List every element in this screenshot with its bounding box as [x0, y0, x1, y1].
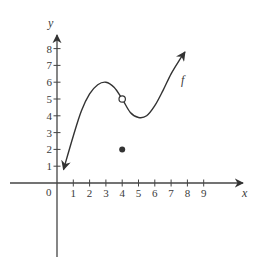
- x-tick-label: 9: [201, 187, 207, 199]
- y-tick-label: 7: [47, 59, 53, 71]
- y-tick-label: 3: [47, 127, 53, 139]
- x-tick-label: 6: [152, 187, 158, 199]
- y-tick-label: 8: [47, 43, 53, 55]
- closed-point: [119, 146, 125, 152]
- curve-f: [64, 52, 185, 170]
- x-tick-label: 1: [71, 187, 77, 199]
- graph-svg: 12345678912345678 x y 0 f: [0, 0, 257, 266]
- axes: [10, 35, 243, 257]
- origin-label: 0: [46, 186, 52, 198]
- function-graph: 12345678912345678 x y 0 f: [0, 0, 257, 266]
- x-tick-label: 4: [119, 187, 125, 199]
- x-tick-label: 3: [103, 187, 109, 199]
- points: [119, 96, 125, 153]
- x-axis-label: x: [241, 186, 248, 200]
- x-tick-label: 5: [136, 187, 142, 199]
- x-tick-label: 7: [168, 187, 174, 199]
- y-tick-label: 6: [47, 76, 53, 88]
- y-tick-label: 4: [47, 110, 53, 122]
- x-tick-label: 8: [185, 187, 191, 199]
- y-tick-label: 5: [47, 93, 53, 105]
- y-axis-label: y: [47, 16, 54, 30]
- x-tick-label: 2: [87, 187, 93, 199]
- y-tick-label: 2: [47, 143, 53, 155]
- ticks: 12345678912345678: [47, 43, 207, 199]
- curve-label-f: f: [181, 73, 186, 87]
- y-tick-label: 1: [47, 160, 53, 172]
- open-point: [119, 96, 125, 102]
